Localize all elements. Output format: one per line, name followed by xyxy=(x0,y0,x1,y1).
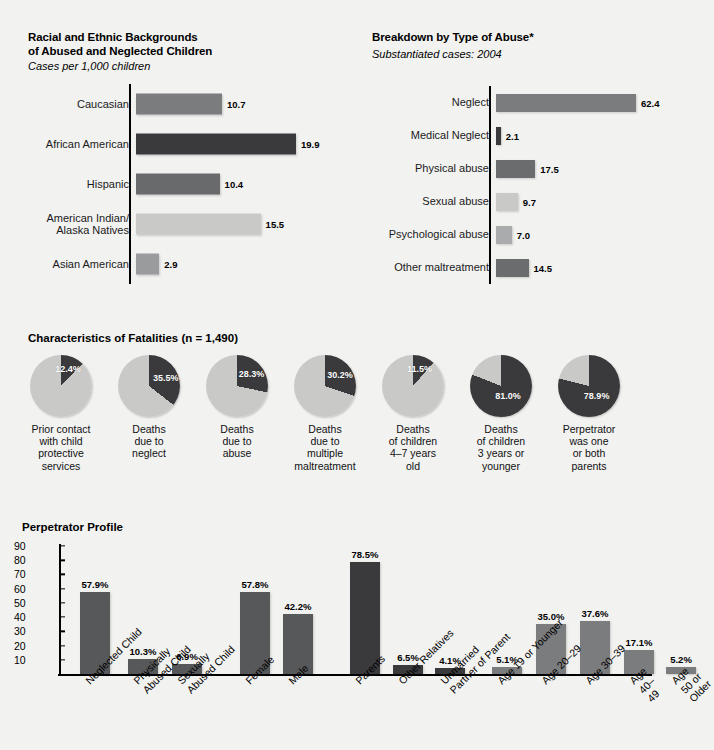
bar-value-label: 2.9 xyxy=(164,259,177,270)
y-tick-mark xyxy=(60,588,65,589)
column-value-label: 17.1% xyxy=(626,637,653,648)
y-tick-label: 70 xyxy=(14,568,18,580)
bar-category-label: Caucasian xyxy=(28,98,136,111)
bar xyxy=(496,127,501,145)
bar-track: 9.7 xyxy=(496,185,666,218)
race-chart-title-line2: of Abused and Neglected Children xyxy=(28,44,328,58)
bar-row: Other maltreatment14.5 xyxy=(372,251,666,284)
pie-graphic: 11.5% xyxy=(382,355,444,417)
pie-value-label: 12.4% xyxy=(55,364,81,374)
y-tick-mark xyxy=(60,545,65,546)
abuse-bar-chart: Neglect62.4Medical Neglect2.1Physical ab… xyxy=(372,86,666,286)
fatalities-pie-row: 12.4%Prior contact with child protective… xyxy=(28,355,648,505)
fatalities-panel: Characteristics of Fatalities (n = 1,490… xyxy=(28,331,648,505)
bar xyxy=(136,254,159,275)
bar-track: 17.5 xyxy=(496,152,666,185)
pie-chart-5: 11.5%Deaths of children 4–7 years old xyxy=(382,355,444,417)
bar-row: African American19.9 xyxy=(28,124,328,164)
bar xyxy=(136,174,220,195)
pie-graphic: 35.5% xyxy=(118,355,180,417)
bar-value-label: 62.4 xyxy=(641,97,660,108)
y-tick-label: 80 xyxy=(14,554,18,566)
bar-track: 15.5 xyxy=(136,204,328,244)
pie-caption: Deaths due to multiple maltreatment xyxy=(283,423,367,472)
pie-caption: Prior contact with child protective serv… xyxy=(19,423,103,472)
bar-value-label: 2.1 xyxy=(506,130,519,141)
abuse-type-chart-panel: Breakdown by Type of Abuse* Substantiate… xyxy=(372,30,666,286)
bar xyxy=(496,160,535,178)
bar-track: 2.9 xyxy=(136,244,328,284)
y-tick-label: 60 xyxy=(14,583,18,595)
race-bar-chart: Caucasian10.7African American19.9Hispani… xyxy=(28,84,328,284)
bar-category-label: Physical abuse xyxy=(372,162,496,175)
bar-category-label: Medical Neglect xyxy=(372,129,496,142)
pie-graphic: 81.0% xyxy=(470,355,532,417)
pie-value-label: 28.3% xyxy=(239,369,265,379)
column-value-label: 57.9% xyxy=(82,579,109,590)
bar xyxy=(496,259,529,277)
pie-value-label: 78.9% xyxy=(584,391,610,401)
bar-row: Medical Neglect2.1 xyxy=(372,119,666,152)
bar xyxy=(496,94,636,112)
bar-category-label: African American xyxy=(28,138,136,151)
bar-value-label: 7.0 xyxy=(517,229,530,240)
y-tick-label: 10 xyxy=(14,654,18,666)
race-chart-title-line1: Racial and Ethnic Backgrounds xyxy=(28,30,328,44)
pie-chart-4: 30.2%Deaths due to multiple maltreatment xyxy=(294,355,356,417)
column-value-label: 37.6% xyxy=(582,608,609,619)
perpetrator-title: Perpetrator Profile xyxy=(22,520,123,534)
y-tick-mark xyxy=(60,602,65,603)
bar-track: 10.7 xyxy=(136,84,328,124)
pie-caption: Deaths of children 4–7 years old xyxy=(371,423,455,472)
bar xyxy=(136,94,222,115)
clipped-top-text xyxy=(150,0,410,5)
pie-caption: Deaths due to neglect xyxy=(107,423,191,460)
bar xyxy=(136,214,261,235)
bar-category-label: Other maltreatment xyxy=(372,261,496,274)
bar xyxy=(136,134,296,155)
bar-row: American Indian/ Alaska Natives15.5 xyxy=(28,204,328,244)
bar-value-label: 17.5 xyxy=(540,163,559,174)
bar-category-label: American Indian/ Alaska Natives xyxy=(28,212,136,237)
bar-value-label: 9.7 xyxy=(523,196,536,207)
pie-value-label: 30.2% xyxy=(327,370,353,380)
bar-track: 10.4 xyxy=(136,164,328,204)
y-tick-label: 30 xyxy=(14,625,18,637)
y-tick-mark xyxy=(60,574,65,575)
race-chart-panel: Racial and Ethnic Backgrounds of Abused … xyxy=(28,30,328,284)
pie-chart-2: 35.5%Deaths due to neglect xyxy=(118,355,180,417)
column-value-label: 42.2% xyxy=(285,601,312,612)
pie-value-label: 81.0% xyxy=(495,391,521,401)
bar xyxy=(496,193,518,211)
bar-category-label: Asian American xyxy=(28,258,136,271)
bar-row: Physical abuse17.5 xyxy=(372,152,666,185)
bar-value-label: 10.7 xyxy=(227,99,246,110)
pie-chart-3: 28.3%Deaths due to abuse xyxy=(206,355,268,417)
bar-category-label: Hispanic xyxy=(28,178,136,191)
y-tick-label: 20 xyxy=(14,640,18,652)
y-tick-mark xyxy=(60,645,65,646)
bar-track: 2.1 xyxy=(496,119,666,152)
perpetrator-y-axis xyxy=(59,544,61,674)
race-chart-subtitle: Cases per 1,000 children xyxy=(28,59,328,73)
pie-caption: Deaths of children 3 years or younger xyxy=(459,423,543,472)
abuse-chart-subtitle: Substantiated cases: 2004 xyxy=(372,47,666,61)
fatalities-title: Characteristics of Fatalities (n = 1,490… xyxy=(28,331,648,345)
pie-value-label: 11.5% xyxy=(407,364,432,374)
pie-chart-7: 78.9%Perpetrator was one or both parents xyxy=(558,355,620,417)
column-value-label: 78.5% xyxy=(352,549,379,560)
bar-row: Hispanic10.4 xyxy=(28,164,328,204)
y-tick-mark xyxy=(60,631,65,632)
bar-row: Caucasian10.7 xyxy=(28,84,328,124)
bar-row: Psychological abuse7.0 xyxy=(372,218,666,251)
y-tick-mark xyxy=(60,560,65,561)
pie-graphic: 78.9% xyxy=(558,355,620,417)
pie-caption: Deaths due to abuse xyxy=(195,423,279,460)
y-tick-label: 90 xyxy=(14,540,18,552)
y-tick-mark xyxy=(60,616,65,617)
bar xyxy=(496,226,512,244)
pie-caption: Perpetrator was one or both parents xyxy=(547,423,631,472)
bar-value-label: 10.4 xyxy=(225,179,244,190)
bar-track: 14.5 xyxy=(496,251,666,284)
